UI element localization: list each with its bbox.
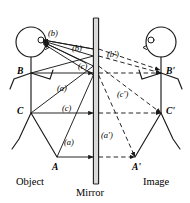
- point-label-c: C: [17, 107, 23, 117]
- point-label-a: A: [52, 163, 58, 173]
- ray-label-b-prime: (b'): [107, 50, 119, 59]
- image-figure: [135, 27, 182, 157]
- zone-label-image: Image: [143, 177, 169, 188]
- ray-label-a-lower: (a): [64, 138, 74, 147]
- ray-label-c-mid: (c): [62, 104, 71, 113]
- diagram-canvas: [0, 0, 190, 203]
- ray-label-a-upper: (a): [57, 84, 67, 93]
- object-figure: [10, 27, 57, 157]
- object-arm-right: [31, 70, 53, 79]
- zone-label-object: Object: [16, 177, 44, 188]
- ray-label-c-upper: (c): [78, 62, 87, 71]
- image-leg-right: [161, 113, 180, 149]
- mirror-bar: [93, 18, 99, 184]
- mirror-ray-diagram: B C A B' C' A' (b) (b) (c) (a) (c) (a) (…: [0, 0, 190, 203]
- virtual-ray-extensions: [99, 49, 161, 157]
- image-eye: [148, 37, 154, 43]
- image-leg-left: [135, 113, 161, 157]
- ray-label-a-prime: (a'): [101, 131, 113, 140]
- point-label-c-prime: C': [166, 107, 175, 117]
- point-label-a-prime: A': [132, 163, 141, 173]
- ray-label-b-upper: (b): [48, 29, 58, 38]
- zone-label-mirror: Mirror: [76, 188, 104, 199]
- ray-b-incident-upper: [43, 40, 93, 49]
- point-label-b: B: [17, 67, 23, 77]
- ray-label-c-prime: (c'): [117, 90, 128, 99]
- point-label-b-prime: B': [166, 67, 175, 77]
- object-leg-right: [31, 113, 57, 157]
- virtual-ray-a-oblique: [99, 75, 135, 157]
- ray-label-b-lower: (b): [72, 44, 82, 53]
- object-leg-left: [12, 113, 31, 149]
- image-arm-left: [139, 70, 161, 79]
